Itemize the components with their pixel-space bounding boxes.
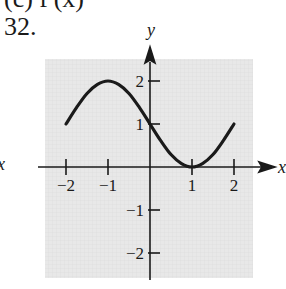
y-tick-label: −2 xyxy=(126,244,144,263)
x-tick-label: 2 xyxy=(230,176,239,195)
y-tick-label: −1 xyxy=(126,201,144,220)
x-tick-label: −2 xyxy=(57,176,75,195)
x-axis-arrow-icon xyxy=(259,162,275,172)
y-axis-arrow-icon xyxy=(145,47,155,63)
x-tick-label: 1 xyxy=(188,176,197,195)
x-tick-label: −1 xyxy=(99,176,117,195)
y-tick-label: 1 xyxy=(136,115,145,134)
function-graph: −2−11221−1−2xy xyxy=(0,0,286,289)
y-axis-label: y xyxy=(145,20,155,40)
x-axis-label: x xyxy=(277,157,286,177)
y-tick-label: 2 xyxy=(136,72,145,91)
grid-background xyxy=(45,59,253,278)
